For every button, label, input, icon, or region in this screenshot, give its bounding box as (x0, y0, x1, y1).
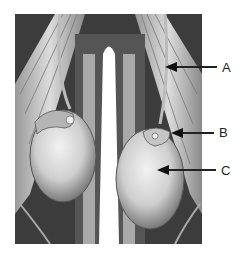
leader-line-b (183, 132, 214, 134)
label-c: C (221, 164, 230, 177)
arrowhead-c-icon (157, 165, 169, 175)
label-a: A (222, 61, 231, 74)
leader-line-c (169, 169, 216, 171)
leader-line-a (177, 66, 217, 68)
label-b: B (219, 126, 228, 139)
arrowhead-b-icon (171, 128, 183, 138)
arrowhead-a-icon (165, 62, 177, 72)
